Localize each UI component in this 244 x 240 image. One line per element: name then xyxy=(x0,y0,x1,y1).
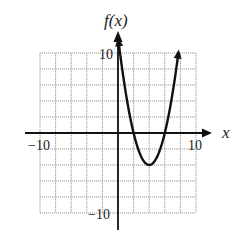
y-axis-label: f(x) xyxy=(104,11,128,30)
x-max-tick-label: 10 xyxy=(188,138,202,153)
curve-arrow-right-icon xyxy=(174,50,182,59)
y-min-tick-label: −10 xyxy=(88,207,110,222)
x-min-tick-label: −10 xyxy=(28,138,50,153)
axes xyxy=(25,31,212,230)
function-graph: f(x) x 10 −10 −10 10 xyxy=(0,0,244,240)
x-axis-arrow-icon xyxy=(202,129,212,138)
y-max-tick-label: 10 xyxy=(99,47,113,62)
x-axis-label: x xyxy=(221,123,230,142)
parabola-curve xyxy=(119,43,178,165)
